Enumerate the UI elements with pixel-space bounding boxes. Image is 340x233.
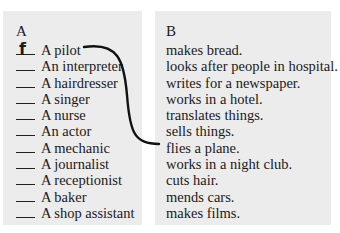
list-item: writes for a newspaper. [166, 75, 338, 91]
list-item: A nurse [16, 107, 134, 123]
list-item: A singer [16, 91, 134, 107]
answer-letter: f [19, 41, 26, 57]
column-a-heading: A [16, 24, 27, 39]
answer-blank[interactable] [16, 76, 35, 88]
list-item: makes films. [166, 205, 338, 221]
column-b-list: makes bread. looks after people in hospi… [166, 42, 338, 221]
answer-blank[interactable] [16, 92, 35, 104]
column-a-panel: A fA pilot An interpreter A hairdresser … [3, 11, 142, 225]
list-item: flies a plane. [166, 140, 338, 156]
job-label: A singer [41, 91, 90, 107]
list-item: translates things. [166, 107, 338, 123]
answer-blank[interactable] [16, 206, 35, 218]
job-label: A nurse [41, 107, 86, 123]
job-label: A receptionist [41, 172, 122, 188]
list-item: A baker [16, 189, 134, 205]
list-item: works in a hotel. [166, 91, 338, 107]
job-label: A pilot [41, 42, 81, 58]
list-item: A mechanic [16, 140, 134, 156]
list-item: fA pilot [16, 42, 134, 58]
job-label: An actor [41, 123, 91, 139]
list-item: makes bread. [166, 42, 338, 58]
job-label: A journalist [41, 156, 109, 172]
answer-blank[interactable] [16, 59, 35, 71]
list-item: sells things. [166, 123, 338, 139]
answer-blank[interactable] [16, 190, 35, 202]
answer-blank[interactable] [16, 141, 35, 153]
job-label: A baker [41, 189, 87, 205]
column-b-heading: B [166, 24, 176, 39]
job-label: A shop assistant [41, 205, 134, 221]
list-item: mends cars. [166, 189, 338, 205]
list-item: An interpreter [16, 58, 134, 74]
list-item: A receptionist [16, 172, 134, 188]
job-label: A hairdresser [41, 75, 118, 91]
answer-blank[interactable]: f [16, 43, 35, 55]
list-item: A journalist [16, 156, 134, 172]
list-item: A shop assistant [16, 205, 134, 221]
job-label: A mechanic [41, 140, 110, 156]
answer-blank[interactable] [16, 108, 35, 120]
job-label: An interpreter [41, 58, 123, 74]
answer-blank[interactable] [16, 173, 35, 185]
list-item: A hairdresser [16, 75, 134, 91]
column-b-panel: B makes bread. looks after people in hos… [155, 11, 331, 225]
answer-blank[interactable] [16, 157, 35, 169]
answer-blank[interactable] [16, 124, 35, 136]
list-item: cuts hair. [166, 172, 338, 188]
column-a-list: fA pilot An interpreter A hairdresser A … [16, 42, 134, 221]
list-item: An actor [16, 123, 134, 139]
list-item: looks after people in hospital. [166, 58, 338, 74]
list-item: works in a night club. [166, 156, 338, 172]
